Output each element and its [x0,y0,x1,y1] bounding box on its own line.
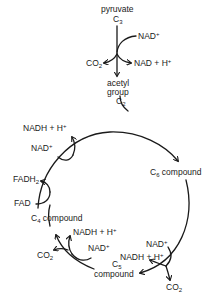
c4-compound-text: compound [40,213,82,223]
c5c4-nadh-output [69,236,72,254]
fadh2-sub: 2 [36,179,39,185]
c6c5-nadh-charge: + [160,252,164,258]
c5c4-co2-output [54,249,68,251]
c5c4-nadh-label: NADH + H+ [73,228,116,237]
entry-nad-charge: + [156,31,160,37]
c5c4-co2-text: CO [37,250,50,260]
acetyl-carbon-label: C2 [116,97,125,106]
fadh2-text: FADH [13,174,36,184]
upper-nadh-label: NADH + H+ [23,124,66,133]
upper-nad-label: NAD+ [31,144,52,153]
c5c4-nad-text: NAD [88,243,106,253]
c6c5-nad-text: NAD [146,239,164,249]
c6-compound-label: C6 compound [150,168,202,177]
c6-compound-text: compound [159,167,201,177]
pyruvate-carbon-count: 3 [119,19,122,25]
c6c5-co2-text: CO [166,282,179,292]
upper-nadh-output-curve [72,137,75,155]
c6c5-nadh-label: NADH + H+ [120,253,163,262]
entry-co2-sub: 2 [99,63,102,69]
c4-compound-label: C4 compound [31,214,83,223]
c6c5-co2-output [166,266,170,280]
entry-nadh-label: NAD + H+ [134,59,171,68]
c6c5-nadh-text: NADH + H [120,252,160,262]
c5c4-nad-label: NAD+ [88,244,109,253]
c5c4-nadh-text: NADH + H [73,227,113,237]
entry-nad-text: NAD [138,31,156,41]
entry-nadh-arrow [117,54,131,63]
fad-label: FAD [14,199,31,208]
c6c5-co2-sub: 2 [179,287,182,293]
entry-co2-label: CO2 [86,59,102,68]
fadh2-label: FADH2 [13,175,39,184]
c6c5-co2-label: CO2 [166,283,182,292]
entry-co2-arrow [104,54,117,63]
acetyl-carbon-count: 2 [122,101,125,107]
upper-nad-text: NAD [31,143,49,153]
pyruvate-carbon-label: C3 [113,15,122,24]
c5c4-nad-charge: + [106,243,110,249]
c5c4-co2-label: CO2 [37,251,53,260]
c5c4-nadh-charge: + [113,227,117,233]
entry-nad-input-arrow [117,36,136,52]
upper-nadh-charge: + [63,123,67,129]
entry-nad-label: NAD+ [138,32,159,41]
c6c5-nad-label: NAD+ [146,240,167,249]
c6c5-nad-charge: + [164,239,168,245]
upper-nadh-text: NADH + H [23,123,63,133]
entry-nadh-text: NAD + H [134,58,168,68]
upper-nad-charge: + [49,143,53,149]
c5-compound-label: compound [94,270,134,279]
entry-nadh-charge: + [168,58,172,64]
entry-co2-text: CO [86,58,99,68]
pyruvate-label: pyruvate [101,5,134,14]
c5c4-co2-sub: 2 [50,255,53,261]
